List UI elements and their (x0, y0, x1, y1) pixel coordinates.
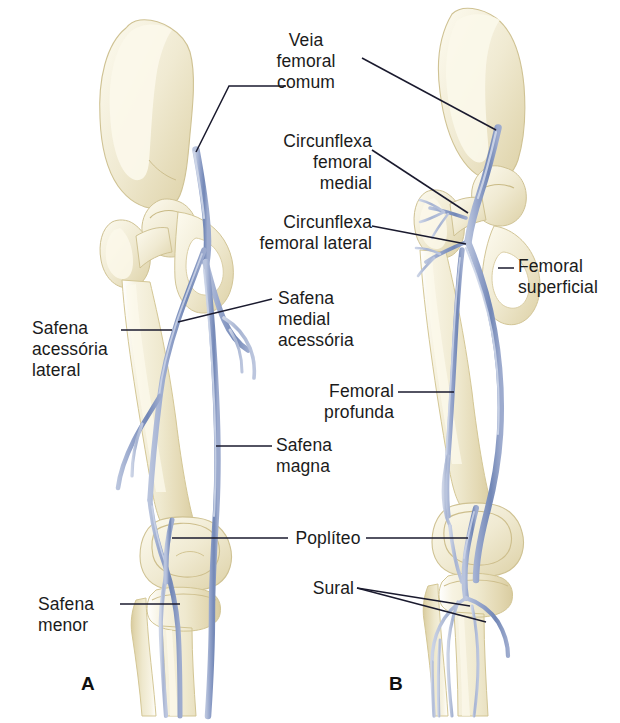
label-femoral-profunda: Femoral profunda (288, 381, 394, 423)
label-safena-medial-acessoria: Safena medial acessória (278, 288, 398, 351)
label-circunflexa-femoral-lateral: Circunflexa femoral lateral (214, 212, 372, 254)
panel-b-illustration (414, 8, 540, 716)
label-veia-femoral-comum: Veia femoral comum (246, 30, 366, 93)
label-popliteo: Poplíteo (292, 528, 364, 549)
label-safena-menor: Safena menor (38, 594, 138, 636)
vein-calf-lateral2-b (438, 640, 440, 716)
vein-calf-lateral-b (432, 662, 434, 716)
femoral-neck-a (136, 227, 172, 268)
label-femoral-superficial: Femoral superficial (518, 256, 618, 298)
label-safena-acessoria-lateral: Safena acessória lateral (32, 318, 144, 381)
label-safena-magna: Safena magna (276, 435, 386, 477)
figure-canvas: Veia femoral comum Circunflexa femoral m… (0, 0, 620, 723)
label-circunflexa-femoral-medial: Circunflexa femoral medial (230, 131, 372, 194)
panel-label-a: A (81, 673, 95, 695)
panel-label-b: B (389, 673, 403, 695)
label-sural: Sural (290, 578, 354, 599)
